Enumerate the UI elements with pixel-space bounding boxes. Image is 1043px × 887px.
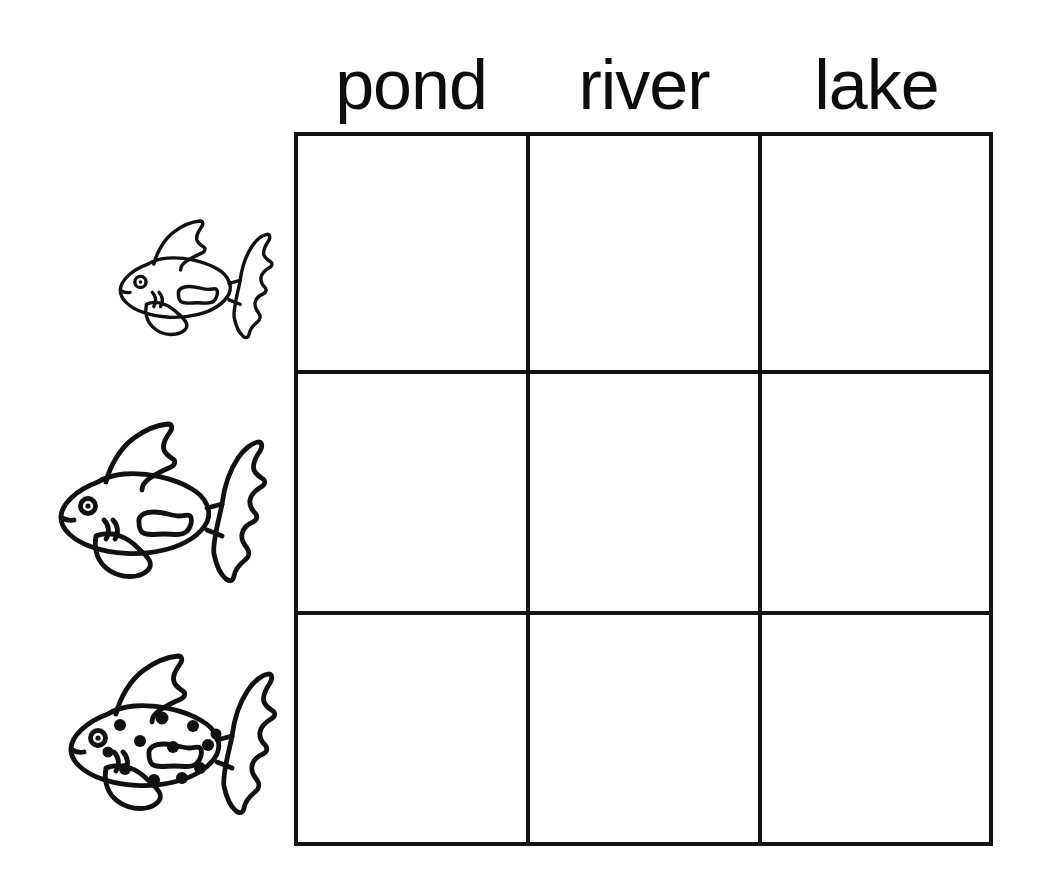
row-header-large-spotted-fish	[56, 644, 292, 816]
sorting-grid	[294, 132, 993, 846]
fish-icon	[108, 212, 286, 340]
row-header-large-plain-fish	[46, 412, 282, 584]
column-header-river: river	[528, 50, 760, 120]
grid-cell-lake-row2[interactable]	[760, 373, 991, 612]
row-header-small-plain-fish	[108, 212, 286, 340]
grid-cell-river-row1[interactable]	[528, 134, 758, 371]
column-header-pond: pond	[294, 50, 528, 120]
grid-cell-pond-row1[interactable]	[296, 134, 526, 371]
worksheet-page: pond river lake	[0, 0, 1043, 887]
grid-cell-lake-row1[interactable]	[760, 134, 991, 371]
grid-cell-river-row2[interactable]	[528, 373, 758, 612]
fish-icon	[46, 412, 282, 584]
grid-cell-lake-row3[interactable]	[760, 614, 991, 844]
grid-cell-pond-row2[interactable]	[296, 373, 526, 612]
grid-cell-river-row3[interactable]	[528, 614, 758, 844]
spotted-fish-icon	[56, 644, 292, 816]
column-header-lake: lake	[760, 50, 993, 120]
grid-cell-pond-row3[interactable]	[296, 614, 526, 844]
